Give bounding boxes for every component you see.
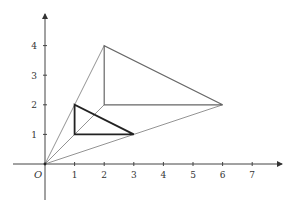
x-tick-labels: 1 2 3 4 5 6 7	[72, 170, 256, 180]
origin-label: O	[34, 169, 42, 180]
axes	[13, 14, 282, 200]
x-tick-label: 4	[161, 170, 167, 180]
large-triangle	[104, 46, 222, 105]
y-tick-label: 2	[31, 100, 37, 110]
diagram-canvas: 1 2 3 4 5 6 7 1 2 3 4 O	[0, 0, 294, 208]
x-tick-label: 5	[190, 170, 196, 180]
x-tick-label: 7	[249, 170, 255, 180]
y-tick-label: 4	[31, 41, 37, 51]
y-tick-label: 1	[31, 130, 37, 140]
y-tick-label: 3	[31, 71, 37, 81]
x-tick-label: 6	[220, 170, 226, 180]
origin-point	[44, 163, 47, 166]
y-tick-labels: 1 2 3 4	[31, 41, 37, 140]
x-tick-label: 2	[101, 170, 107, 180]
x-tick-label: 1	[72, 170, 78, 180]
x-tick-label: 3	[131, 170, 137, 180]
small-triangle	[75, 105, 134, 135]
